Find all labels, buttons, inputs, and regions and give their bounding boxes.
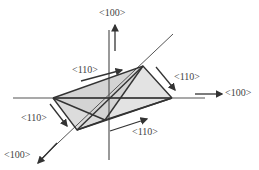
label-edge-bottom-right: <110> — [132, 127, 158, 137]
crystal-direction-diagram — [0, 0, 259, 170]
label-edge-bottom-left: <110> — [21, 113, 47, 123]
label-horizontal-axis: <100> — [225, 88, 251, 98]
label-edge-top-left: <110> — [72, 65, 98, 75]
label-edge-top-right: <110> — [174, 72, 200, 82]
label-vertical-axis: <100> — [99, 8, 125, 18]
label-diagonal-axis: <100> — [4, 150, 30, 160]
arrow-down-left-icon — [38, 143, 57, 163]
